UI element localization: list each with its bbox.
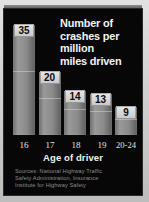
bar-sheen: [90, 111, 112, 112]
x-tick-2: 18: [65, 140, 87, 150]
bar-17: 20: [39, 72, 61, 135]
bar-value-label-18: 14: [65, 90, 85, 103]
bar-value-label-17: 20: [40, 71, 60, 84]
bar-sheen: [13, 71, 35, 72]
source-note: Sources: National Highway Traffic Safety…: [15, 168, 133, 189]
bar-18: 14: [64, 91, 86, 135]
bar-group-3: 13: [90, 25, 112, 135]
bar-sheen: [39, 98, 61, 99]
chart-screenshot: Number of crashes per million miles driv…: [0, 0, 149, 202]
bar-value-label-20-24: 9: [116, 106, 136, 119]
bar-16: 35: [13, 25, 35, 135]
bar-sheen: [64, 109, 86, 110]
plot-area: 35 20 14: [4, 9, 142, 195]
bar-group-4: 9: [115, 25, 137, 135]
x-axis-tick-labels: 16 17 18 19 20-24: [13, 140, 137, 150]
source-line-1: Sources: National Highway Traffic: [15, 168, 133, 175]
source-line-3: Institute for Highway Safety: [15, 182, 133, 189]
bar-value-label-16: 35: [14, 24, 34, 37]
bar-19: 13: [90, 94, 112, 135]
bar-group-2: 14: [64, 25, 86, 135]
x-axis-title: Age of driver: [4, 152, 142, 163]
x-tick-1: 17: [39, 140, 61, 150]
bar-group-1: 20: [39, 25, 61, 135]
source-line-2: Safety Administration, Insurance: [15, 175, 133, 182]
x-tick-0: 16: [13, 140, 35, 150]
x-tick-4: 20-24: [115, 140, 137, 150]
bar-value-label-19: 13: [91, 93, 111, 106]
chart-panel: Number of crashes per million miles driv…: [4, 9, 142, 195]
bar-series: 35 20 14: [13, 25, 137, 135]
bar-group-0: 35: [13, 25, 35, 135]
x-tick-3: 19: [91, 140, 113, 150]
bar-20-24: 9: [115, 107, 137, 135]
